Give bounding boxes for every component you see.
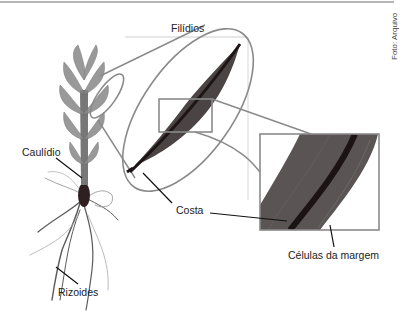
label-rizoides: Rizoides: [58, 286, 98, 298]
leaf: [135, 44, 240, 165]
moss-diagram: [0, 0, 412, 321]
detail-connector: [212, 99, 311, 134]
costa-leader-leaf: [143, 173, 172, 203]
label-celulas-margem: Células da margem: [288, 249, 379, 261]
stem-base: [78, 183, 90, 207]
photo-credit: Foto: Arquivo: [390, 13, 399, 60]
label-costa: Costa: [176, 204, 203, 216]
detail-connector: [195, 132, 262, 175]
magnified-leaf: [260, 134, 379, 230]
label-filidios: Filídios: [171, 22, 204, 34]
label-caulidio: Caulídio: [22, 146, 61, 158]
rizoides-leader: [56, 267, 78, 284]
